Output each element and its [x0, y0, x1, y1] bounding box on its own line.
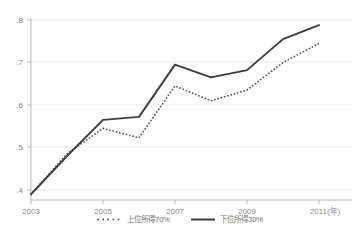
gridlines [31, 20, 352, 190]
y-tick-label-0.5: .5 [16, 143, 23, 152]
x-tick-label-2003: 2003 [22, 207, 40, 216]
legend-label-upper-income-70: 上位所得70% [127, 216, 170, 224]
y-tick-label-0.6: .6 [16, 101, 23, 110]
y-tick-label-0.8: .8 [16, 16, 23, 25]
legend-swatch-solid [190, 216, 216, 223]
y-tick-label-0.7: .7 [16, 58, 23, 67]
legend-entry-lower-income-30[interactable]: 下位所得30% [190, 216, 263, 224]
x-tick-marks [31, 200, 319, 204]
legend-entry-upper-income-70[interactable]: 上位所得70% [97, 216, 170, 224]
legend-label-lower-income-30: 下位所得30% [220, 216, 263, 224]
line-chart: .8 .7 .6 .5 .4 2003 2005 2007 2009 2011(… [0, 0, 360, 239]
legend-swatch-dotted [97, 216, 123, 223]
series-line-lower-income-30 [31, 25, 319, 194]
chart-legend: 上位所得70% 下位所得30% [0, 216, 360, 224]
x-tick-label-2005: 2005 [94, 207, 112, 216]
y-tick-label-0.4: .4 [16, 186, 23, 195]
x-tick-label-2011: 2011(年) [310, 206, 341, 216]
chart-canvas: .8 .7 .6 .5 .4 2003 2005 2007 2009 2011(… [0, 0, 360, 239]
y-tick-marks [27, 20, 31, 190]
